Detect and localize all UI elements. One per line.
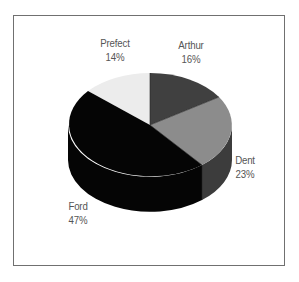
label-pct: 47%: [64, 213, 92, 227]
label-pct: 23%: [231, 167, 259, 181]
data-label-ford: Ford 47%: [64, 199, 92, 227]
label-name: Arthur: [173, 38, 210, 52]
data-label-arthur: Arthur 16%: [173, 38, 210, 66]
label-name: Dent: [231, 153, 259, 167]
label-name: Ford: [64, 199, 92, 213]
label-name: Prefect: [95, 36, 135, 50]
data-label-prefect: Prefect 14%: [95, 36, 135, 64]
pie-chart-3d: [0, 0, 299, 282]
data-label-dent: Dent 23%: [231, 153, 259, 181]
label-pct: 14%: [95, 50, 135, 64]
label-pct: 16%: [173, 52, 210, 66]
